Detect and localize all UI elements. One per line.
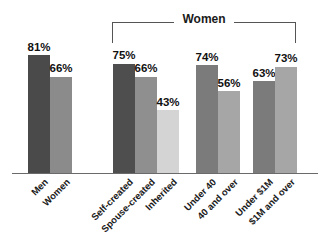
- bar-wealth-level-1: 73%: [275, 67, 297, 173]
- bar-value-label: 63%: [252, 68, 275, 80]
- bar-age-0: 74%: [196, 65, 218, 173]
- bar-value-label: 66%: [134, 63, 157, 75]
- bar-value-label: 75%: [112, 50, 135, 62]
- bar-wealth-origin-1: 66%: [135, 77, 157, 173]
- axis-baseline: [12, 173, 318, 174]
- bar-chart: Women 81%66%75%66%43%74%56%63%73% MenWom…: [0, 0, 330, 246]
- plot-area: 81%66%75%66%43%74%56%63%73% MenWomenSelf…: [0, 0, 330, 246]
- bar-gender-0: 81%: [28, 55, 50, 173]
- bar-value-label: 43%: [156, 97, 179, 109]
- bar-value-label: 66%: [49, 63, 72, 75]
- bar-wealth-level-0: 63%: [253, 81, 275, 173]
- bar-wealth-origin-2: 43%: [157, 110, 179, 173]
- bar-value-label: 73%: [274, 53, 297, 65]
- bar-age-1: 56%: [218, 91, 240, 173]
- bar-value-label: 74%: [195, 52, 218, 64]
- bar-value-label: 81%: [27, 42, 50, 54]
- bar-value-label: 56%: [217, 78, 240, 90]
- bar-wealth-origin-0: 75%: [113, 64, 135, 173]
- bar-gender-1: 66%: [50, 77, 72, 173]
